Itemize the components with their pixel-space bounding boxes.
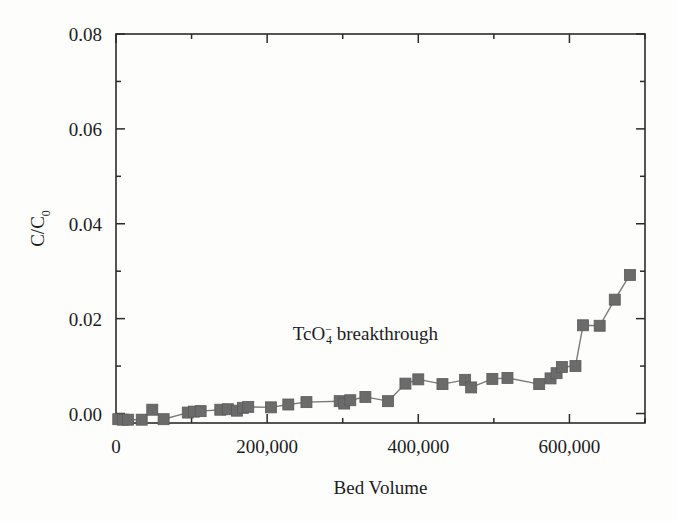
data-point	[136, 414, 147, 425]
data-point	[360, 391, 371, 402]
data-point	[594, 320, 605, 331]
data-point	[383, 396, 394, 407]
data-point	[437, 379, 448, 390]
data-point	[301, 397, 312, 408]
data-point	[123, 414, 134, 425]
data-point	[624, 269, 635, 280]
data-point	[243, 401, 254, 412]
x-tick-labels: 0200,000400,000600,000	[111, 436, 600, 457]
y-tick-label: 0.06	[69, 119, 102, 140]
y-tick-label: 0.02	[69, 309, 102, 330]
y-tick-label: 0.08	[69, 24, 102, 45]
chart-annotation: TcO−4 breakthrough	[293, 322, 439, 347]
x-tick-label: 400,000	[387, 436, 449, 457]
data-point	[147, 404, 158, 415]
x-axis-title: Bed Volume	[334, 477, 428, 498]
data-point	[570, 361, 581, 372]
axis-titles: Bed VolumeC/C0	[27, 210, 427, 498]
data-markers	[113, 269, 636, 425]
data-line	[118, 275, 630, 420]
data-point	[466, 382, 477, 393]
data-point	[556, 362, 567, 373]
data-point	[578, 320, 589, 331]
y-axis-title: C/C0	[27, 210, 53, 247]
x-tick-label: 600,000	[539, 436, 601, 457]
data-point	[400, 378, 411, 389]
data-point	[158, 414, 169, 425]
x-tick-label: 200,000	[236, 436, 298, 457]
y-tick-labels: 0.000.020.040.060.08	[69, 24, 103, 425]
data-point	[534, 379, 545, 390]
data-point	[345, 395, 356, 406]
data-point	[413, 374, 424, 385]
y-tick-label: 0.04	[69, 214, 103, 235]
data-point	[609, 294, 620, 305]
data-point	[195, 406, 206, 417]
data-point	[487, 373, 498, 384]
figure-canvas: 0200,000400,000600,000 0.000.020.040.060…	[0, 0, 677, 521]
y-tick-label: 0.00	[69, 404, 102, 425]
x-tick-label: 0	[111, 436, 121, 457]
data-point	[265, 402, 276, 413]
data-point	[502, 372, 513, 383]
data-point	[283, 399, 294, 410]
chart-plot: 0200,000400,000600,000 0.000.020.040.060…	[0, 0, 677, 521]
breakthrough-annotation: TcO−4 breakthrough	[293, 322, 439, 347]
